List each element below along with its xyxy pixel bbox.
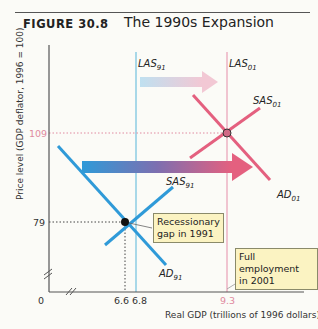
equilibrium-1991-point xyxy=(121,218,129,226)
y-axis-break xyxy=(44,269,52,279)
y-axis-title: Price level (GDP deflator, 1996 = 100) xyxy=(15,27,25,200)
full-employment-note-line-2: in 2001 xyxy=(239,275,314,287)
x-axis-title: Real GDP (trillions of 1996 dollars) xyxy=(165,310,318,320)
sas01-label: SAS01 xyxy=(253,95,281,109)
origin-label: 0 xyxy=(38,295,44,306)
equilibrium-2001-point xyxy=(223,129,231,137)
ad91-label: AD91 xyxy=(158,268,182,282)
y-tick-109: 109 xyxy=(29,128,47,139)
las01-label: LAS01 xyxy=(229,58,257,72)
full-employment-note-line-1: Full employment xyxy=(239,251,314,275)
x-tick-6-6: 6.6 xyxy=(114,295,129,306)
recessionary-note-line-1: Recessionary xyxy=(157,216,220,228)
full-employment-note: Full employment in 2001 xyxy=(235,248,318,290)
recessionary-gap-note: Recessionary gap in 1991 xyxy=(153,213,224,243)
recessionary-note-line-2: gap in 1991 xyxy=(157,228,220,240)
y-tick-79: 79 xyxy=(33,217,45,228)
ad01-label: AD01 xyxy=(276,189,300,203)
las91-label: LAS91 xyxy=(138,58,166,72)
las-shift-arrow xyxy=(140,71,218,93)
x-tick-6-8: 6.8 xyxy=(132,295,147,306)
x-tick-9-3: 9.3 xyxy=(220,295,235,306)
